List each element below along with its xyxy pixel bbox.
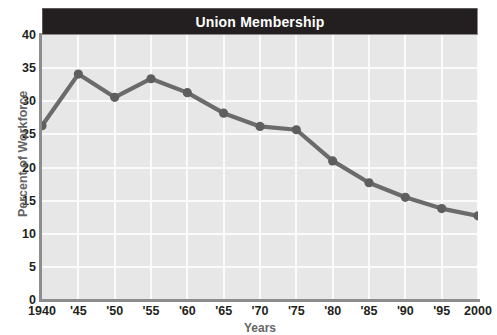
data-point-marker xyxy=(146,74,155,83)
chart-title: Union Membership xyxy=(195,14,324,30)
y-axis-title: Percent of Workforce xyxy=(16,69,30,239)
data-point-marker xyxy=(183,88,192,97)
x-tick-label: '75 xyxy=(288,305,305,318)
x-tick-label: '70 xyxy=(252,305,269,318)
x-axis-line xyxy=(39,299,480,302)
data-series-line xyxy=(42,35,478,300)
data-point-marker xyxy=(219,109,228,118)
data-point-marker xyxy=(401,193,410,202)
data-point-marker xyxy=(110,93,119,102)
x-tick-label: '90 xyxy=(397,305,414,318)
x-axis-title: Years xyxy=(42,321,478,335)
series-polyline xyxy=(42,74,478,216)
x-tick-label: 1940 xyxy=(28,305,56,318)
data-point-marker xyxy=(364,178,373,187)
chart-title-band: Union Membership xyxy=(42,8,478,35)
x-tick-label: '50 xyxy=(106,305,123,318)
y-axis-line xyxy=(39,33,42,302)
chart-figure: Union Membership 0510152025303540 1940'4… xyxy=(0,0,497,335)
x-tick-label: '80 xyxy=(324,305,341,318)
data-point-marker xyxy=(437,204,446,213)
x-tick-label: '85 xyxy=(361,305,378,318)
data-point-marker xyxy=(74,69,83,78)
data-point-marker xyxy=(473,211,478,220)
x-tick-label: '95 xyxy=(433,305,450,318)
x-tick-label: '45 xyxy=(70,305,87,318)
data-point-marker xyxy=(255,122,264,131)
x-tick-label: '55 xyxy=(143,305,160,318)
plot-area xyxy=(42,35,478,300)
x-tick-label: 2000 xyxy=(464,305,492,318)
y-tick-label: 40 xyxy=(2,29,36,42)
data-point-marker xyxy=(328,156,337,165)
x-tick-label: '65 xyxy=(215,305,232,318)
data-point-marker xyxy=(292,125,301,134)
x-tick-label: '60 xyxy=(179,305,196,318)
y-tick-label: 5 xyxy=(2,261,36,274)
